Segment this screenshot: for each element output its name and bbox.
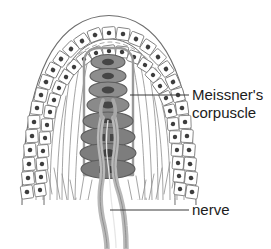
lamella bbox=[90, 69, 126, 84]
meissner-corpuscle-diagram: Meissner's corpuscle nerve bbox=[0, 0, 271, 249]
label-meissners-line2: corpuscle bbox=[192, 104, 256, 121]
label-nerve: nerve bbox=[192, 201, 230, 218]
lamella bbox=[87, 97, 129, 114]
label-meissners-corpuscle: Meissner's corpuscle bbox=[192, 86, 267, 121]
lamella bbox=[91, 55, 125, 70]
label-meissners-line1: Meissner's bbox=[192, 86, 263, 103]
lamella bbox=[89, 82, 127, 98]
figure-root: Meissner's corpuscle nerve bbox=[0, 0, 271, 249]
